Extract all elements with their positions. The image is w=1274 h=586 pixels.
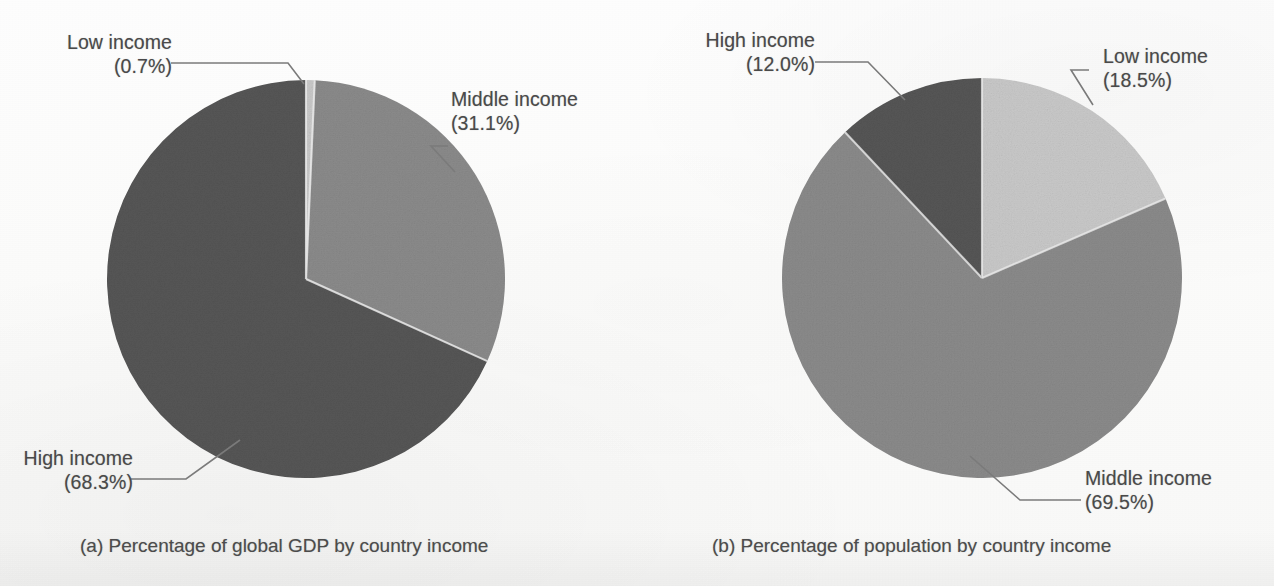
- callout-low-income-a-value: (0.7%): [10, 54, 172, 78]
- callout-low-income-a-name: Low income: [67, 31, 172, 53]
- callout-high-income-a-name: High income: [24, 447, 133, 469]
- callout-high-income-b: High income (12.0%): [659, 28, 815, 76]
- callout-middle-income-b: Middle income (69.5%): [1085, 466, 1265, 514]
- callout-middle-income-a: Middle income (31.1%): [451, 87, 631, 135]
- callout-high-income-a-value: (68.3%): [0, 470, 133, 494]
- caption-panel-a: (a) Percentage of global GDP by country …: [80, 534, 488, 558]
- callout-low-income-b-value: (18.5%): [1103, 68, 1263, 92]
- pie-chart-population[interactable]: [782, 78, 1182, 478]
- callout-middle-income-a-value: (31.1%): [451, 111, 631, 135]
- callout-high-income-b-value: (12.0%): [659, 52, 815, 76]
- callout-middle-income-a-name: Middle income: [451, 88, 578, 110]
- callout-low-income-b-name: Low income: [1103, 45, 1208, 67]
- callout-low-income-a: Low income (0.7%): [10, 30, 172, 78]
- chart-panel-population: High income (12.0%) Low income (18.5%) M…: [637, 0, 1274, 586]
- callout-high-income-b-name: High income: [706, 29, 815, 51]
- pie-svg-global-gdp: [107, 80, 505, 478]
- caption-panel-b: (b) Percentage of population by country …: [712, 534, 1111, 558]
- callout-middle-income-b-name: Middle income: [1085, 467, 1212, 489]
- pie-svg-population: [782, 78, 1182, 478]
- callout-low-income-b: Low income (18.5%): [1103, 44, 1263, 92]
- callout-middle-income-b-value: (69.5%): [1085, 490, 1265, 514]
- chart-panel-global-gdp: Low income (0.7%) Middle income (31.1%) …: [0, 0, 637, 586]
- callout-high-income-a: High income (68.3%): [0, 446, 133, 494]
- pie-chart-global-gdp[interactable]: [107, 80, 505, 478]
